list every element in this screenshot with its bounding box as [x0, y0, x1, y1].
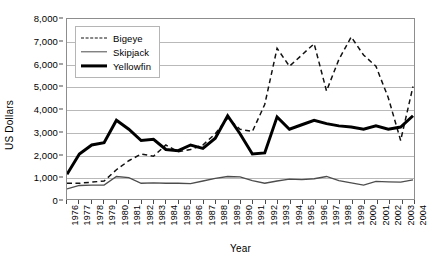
- x-axis-tick-mark: [265, 200, 266, 204]
- x-axis-tick-mark: [78, 200, 79, 204]
- x-axis-tick-mark: [153, 200, 154, 204]
- y-axis-tick-mark: [59, 154, 63, 155]
- legend: Bigeye Skipjack Yellowfin: [75, 26, 160, 78]
- x-axis-tick-mark: [66, 200, 67, 204]
- x-axis-title: Year: [66, 243, 415, 254]
- x-axis-tick-label: 1991: [256, 205, 266, 225]
- x-axis-tick-label: 2002: [393, 205, 403, 225]
- x-axis-tick-mark: [103, 200, 104, 204]
- x-axis-tick-mark: [228, 200, 229, 204]
- x-axis-tick-label: 1979: [107, 205, 117, 225]
- legend-item-skipjack: Skipjack: [81, 45, 151, 59]
- y-axis-tick-mark: [59, 131, 63, 132]
- x-axis-tick-label: 1986: [194, 205, 204, 225]
- x-axis-tick-label: 1987: [207, 205, 217, 225]
- x-axis-tick-label: 1990: [244, 205, 254, 225]
- x-axis-tick-label: 1976: [70, 205, 80, 225]
- legend-swatch-yellowfin-bold-line-icon: [81, 61, 107, 71]
- series-line-skipjack: [67, 177, 413, 189]
- x-axis-tick-mark: [327, 200, 328, 204]
- y-axis-tick-label: 8,000: [34, 13, 58, 24]
- x-axis-tick-mark: [364, 200, 365, 204]
- x-axis-tick-mark: [141, 200, 142, 204]
- x-axis-tick-mark: [389, 200, 390, 204]
- x-axis-tick-label: 1999: [356, 205, 366, 225]
- x-axis-tick-mark: [402, 200, 403, 204]
- x-axis-tick-mark: [277, 200, 278, 204]
- x-axis-tick-label: 2003: [406, 205, 416, 225]
- y-axis-tick-mark: [59, 109, 63, 110]
- x-axis-tick-mark: [215, 200, 216, 204]
- legend-item-bigeye: Bigeye: [81, 31, 151, 45]
- x-axis-tick-marks: [66, 200, 415, 204]
- series-line-yellowfin: [67, 116, 413, 174]
- legend-item-yellowfin: Yellowfin: [81, 59, 151, 73]
- y-axis-tick-labels: 01,0002,0003,0004,0005,0006,0007,0008,00…: [18, 18, 62, 200]
- x-axis-tick-mark: [165, 200, 166, 204]
- y-axis-tick-label: 6,000: [34, 58, 58, 69]
- x-axis-tick-mark: [377, 200, 378, 204]
- x-axis-tick-mark: [128, 200, 129, 204]
- x-axis-tick-label: 1977: [82, 205, 92, 225]
- x-axis-tick-mark: [290, 200, 291, 204]
- x-axis-tick-mark: [91, 200, 92, 204]
- legend-label-bigeye: Bigeye: [113, 33, 143, 44]
- legend-swatch-bigeye-dashed-line-icon: [81, 33, 107, 43]
- legend-label-yellowfin: Yellowfin: [113, 61, 151, 72]
- y-axis-tick-mark: [59, 177, 63, 178]
- y-axis-tick-mark: [59, 200, 63, 201]
- x-axis-tick-mark: [203, 200, 204, 204]
- x-axis-tick-label: 1983: [157, 205, 167, 225]
- y-axis-tick-label: 3,000: [34, 126, 58, 137]
- tuna-price-line-chart: US Dollars 01,0002,0003,0004,0005,0006,0…: [0, 0, 432, 265]
- y-axis-tick-label: 1,000: [34, 172, 58, 183]
- y-axis-tick-label: 2,000: [34, 149, 58, 160]
- x-axis-tick-label: 1993: [281, 205, 291, 225]
- legend-swatch-skipjack-line-icon: [81, 47, 107, 57]
- x-axis-tick-label: 1995: [306, 205, 316, 225]
- x-axis-tick-label: 1984: [169, 205, 179, 225]
- x-axis-tick-mark: [178, 200, 179, 204]
- x-axis-tick-mark: [240, 200, 241, 204]
- x-axis-tick-label: 1989: [232, 205, 242, 225]
- x-axis-tick-label: 1998: [343, 205, 353, 225]
- x-axis-tick-mark: [116, 200, 117, 204]
- x-axis-tick-label: 1980: [120, 205, 130, 225]
- y-axis-title: US Dollars: [0, 60, 18, 190]
- x-axis-tick-mark: [315, 200, 316, 204]
- x-axis-tick-label: 1978: [95, 205, 105, 225]
- y-axis-tick-label: 4,000: [34, 104, 58, 115]
- x-axis-tick-mark: [302, 200, 303, 204]
- x-axis-tick-label: 1994: [294, 205, 304, 225]
- x-axis-tick-mark: [252, 200, 253, 204]
- y-axis-tick-mark: [59, 86, 63, 87]
- x-axis-tick-mark: [414, 200, 415, 204]
- x-axis-tick-label: 1981: [132, 205, 142, 225]
- x-axis-tick-label: 1985: [182, 205, 192, 225]
- x-axis-tick-mark: [352, 200, 353, 204]
- x-axis-tick-label: 1997: [331, 205, 341, 225]
- x-axis-tick-label: 1996: [319, 205, 329, 225]
- y-axis-tick-mark: [59, 40, 63, 41]
- x-axis-tick-label: 1988: [219, 205, 229, 225]
- y-axis-tick-label: 5,000: [34, 81, 58, 92]
- x-axis-tick-label: 2001: [381, 205, 391, 225]
- plot-area: Bigeye Skipjack Yellowfin: [66, 18, 415, 200]
- x-axis-tick-mark: [190, 200, 191, 204]
- y-axis-tick-label: 7,000: [34, 35, 58, 46]
- x-axis-tick-label: 2004: [418, 205, 428, 225]
- x-axis-tick-label: 1992: [269, 205, 279, 225]
- y-axis-tick-label: 0: [53, 195, 58, 206]
- x-axis-tick-labels: 1976197719781979198019811982198319841985…: [66, 205, 415, 239]
- y-axis-tick-mark: [59, 63, 63, 64]
- y-axis-tick-mark: [59, 18, 63, 19]
- y-axis-title-label: US Dollars: [4, 100, 15, 150]
- legend-label-skipjack: Skipjack: [113, 47, 149, 58]
- x-axis-tick-mark: [339, 200, 340, 204]
- x-axis-tick-label: 2000: [368, 205, 378, 225]
- x-axis-tick-label: 1982: [145, 205, 155, 225]
